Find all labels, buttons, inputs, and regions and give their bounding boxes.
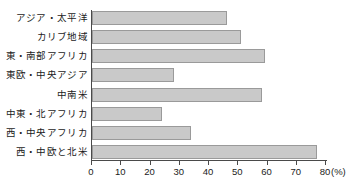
category-label: アジア・太平洋	[0, 11, 88, 25]
bar-row	[92, 68, 326, 82]
bar-row	[92, 126, 326, 140]
x-tick	[296, 161, 297, 165]
category-label: 東・南部アフリカ	[0, 49, 88, 63]
x-tick-label: 0	[88, 166, 93, 177]
x-tick-label: 20	[144, 166, 155, 177]
bar-row	[92, 107, 326, 121]
bar	[92, 49, 265, 63]
bar	[92, 107, 162, 121]
bar	[92, 68, 174, 82]
bar-row	[92, 30, 326, 44]
x-tick-label: 10	[115, 166, 126, 177]
category-label: 西・中欧と北米	[0, 145, 88, 159]
x-tick-label: 60	[261, 166, 272, 177]
category-label: 中東・北アフリカ	[0, 107, 88, 121]
x-tick-label: 70	[290, 166, 301, 177]
x-tick	[267, 161, 268, 165]
x-tick-label: 40	[203, 166, 214, 177]
bar-rows	[92, 11, 326, 159]
category-axis-labels: アジア・太平洋カリブ地域東・南部アフリカ東欧・中央アジア中南米中東・北アフリカ西…	[0, 11, 88, 159]
bar	[92, 11, 227, 25]
x-axis-line	[91, 160, 327, 161]
plot-area	[92, 11, 326, 159]
x-tick	[120, 161, 121, 165]
bar	[92, 30, 241, 44]
x-tick	[179, 161, 180, 165]
bar-chart: アジア・太平洋カリブ地域東・南部アフリカ東欧・中央アジア中南米中東・北アフリカ西…	[0, 0, 357, 186]
bar	[92, 88, 262, 102]
bar-row	[92, 88, 326, 102]
category-label: 西・中央アフリカ	[0, 126, 88, 140]
x-axis-unit-label: (%)	[331, 166, 346, 177]
bar-row	[92, 145, 326, 159]
x-tick	[208, 161, 209, 165]
x-tick-label: 30	[173, 166, 184, 177]
bar	[92, 126, 191, 140]
x-tick	[150, 161, 151, 165]
category-label: 東欧・中央アジア	[0, 68, 88, 82]
x-tick	[237, 161, 238, 165]
y-axis-line	[91, 10, 92, 161]
x-tick	[325, 161, 326, 165]
bar-row	[92, 49, 326, 63]
x-tick-label: 80	[320, 166, 331, 177]
bar-row	[92, 11, 326, 25]
bar	[92, 145, 317, 159]
category-label: 中南米	[0, 88, 88, 102]
x-tick	[91, 161, 92, 165]
category-label: カリブ地域	[0, 30, 88, 44]
x-tick-label: 50	[232, 166, 243, 177]
